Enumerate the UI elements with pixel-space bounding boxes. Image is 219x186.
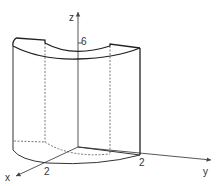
y-tick-label: 2 <box>139 157 145 168</box>
hidden-bottom-arc <box>45 142 110 155</box>
top-right-rim <box>110 44 140 48</box>
bottom-radius-y <box>78 147 140 155</box>
z-tick-label: 6 <box>81 36 87 47</box>
top-left-corner <box>13 38 16 46</box>
top-front-arc <box>13 46 140 59</box>
solid-edges <box>13 38 140 164</box>
hidden-edges <box>14 43 110 155</box>
x-axis-label: x <box>5 172 10 183</box>
z-axis-label: z <box>69 12 74 23</box>
top-back-arc <box>45 43 110 51</box>
top-left-rim <box>16 38 45 43</box>
cylinder-diagram: z 6 x 2 2 y <box>0 0 219 186</box>
hidden-bottom-left <box>14 141 45 142</box>
y-axis-label: y <box>203 166 208 177</box>
x-tick-label: 2 <box>44 166 50 177</box>
